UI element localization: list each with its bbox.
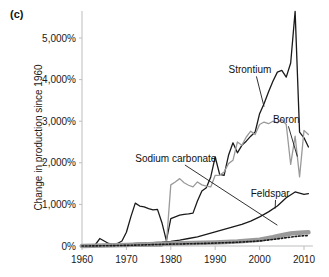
x-tick-label: 2000 <box>248 254 271 265</box>
series-line-strontium <box>82 11 308 246</box>
series-annotation-label: Sodium carbonate <box>135 153 217 164</box>
series-line-boron <box>82 120 308 246</box>
x-tick-group: 196019701980199020002010 <box>71 246 316 265</box>
y-tick-label: 2,000% <box>42 157 76 168</box>
annotation-leader-line <box>256 76 264 106</box>
x-tick-label: 1960 <box>71 254 94 265</box>
x-tick-label: 1980 <box>160 254 183 265</box>
panel-label: (c) <box>10 8 23 20</box>
y-axis-title: Change in production since 1960 <box>33 38 44 238</box>
y-tick-label: 3,000% <box>42 116 76 127</box>
series-annotation-label: Strontium <box>229 64 272 75</box>
line-chart-canvas: 0%1,000%2,000%3,000%4,000%5,000% 1960197… <box>0 0 329 277</box>
y-tick-label: 5,000% <box>42 33 76 44</box>
series-group <box>82 11 308 246</box>
series-annotation-label: Boron <box>273 114 300 125</box>
y-tick-label: 4,000% <box>42 74 76 85</box>
x-tick-label: 2010 <box>293 254 316 265</box>
y-tick-label: 0% <box>62 241 77 252</box>
axes-group <box>82 11 313 246</box>
x-tick-label: 1990 <box>204 254 227 265</box>
figure-panel-c: (c) Change in production since 1960 0%1,… <box>0 0 329 277</box>
y-tick-label: 1,000% <box>42 199 76 210</box>
annotation-group: StrontiumBoronSodium carbonateFeldspar <box>135 64 299 225</box>
x-tick-label: 1970 <box>115 254 138 265</box>
y-tick-group: 0%1,000%2,000%3,000%4,000%5,000% <box>42 33 82 252</box>
series-annotation-label: Feldspar <box>251 188 291 199</box>
